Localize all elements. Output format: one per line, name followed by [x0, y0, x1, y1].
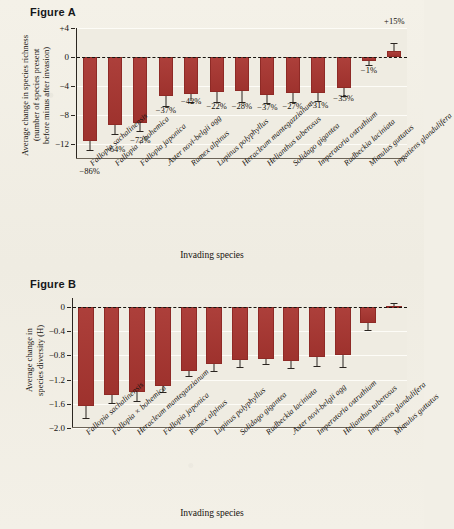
bar-value-label: +15% — [384, 16, 404, 26]
y-axis-tick-label: 0 — [61, 302, 66, 312]
y-axis-tick — [71, 28, 75, 29]
error-bar — [317, 357, 318, 367]
figure-b-y-axis-title: Average change in species diversity (H) — [24, 300, 45, 420]
figure-a-x-axis-title: Invading species — [0, 250, 424, 260]
error-bar-cap — [82, 418, 89, 419]
y-axis-tick-label: −12 — [55, 139, 69, 149]
bar-group: −86% — [77, 28, 102, 159]
y-axis-tick-label: −4 — [59, 81, 69, 91]
y-axis-tick — [67, 307, 71, 308]
error-bar — [368, 323, 369, 330]
figure-a-y-axis-title: Average change in species richness (numb… — [20, 30, 52, 160]
error-bar-cap — [262, 364, 269, 365]
bar-value-label: −37% — [257, 102, 277, 112]
bar — [235, 57, 249, 91]
figure-a-x-tick-labels: Fallopia sachalinensisFallopia × bohemic… — [0, 161, 424, 246]
y-axis-tick-label: −8 — [59, 110, 69, 120]
bar — [104, 307, 120, 395]
bar — [258, 307, 274, 359]
error-bar-cap — [211, 371, 218, 372]
figure-a-title: Figure A — [30, 6, 76, 18]
bar — [286, 57, 300, 93]
error-bar — [239, 360, 240, 367]
zero-reference-line — [73, 307, 407, 308]
bar — [260, 57, 274, 95]
y-axis-tick — [71, 115, 75, 116]
bar — [210, 57, 224, 92]
error-bar — [85, 406, 86, 417]
bar — [159, 57, 173, 96]
y-axis-tick-label: 0 — [65, 52, 70, 62]
error-bar-cap — [391, 303, 398, 304]
bar — [83, 57, 97, 141]
bar — [283, 307, 299, 361]
y-axis-tick — [71, 86, 75, 87]
figure-b-x-axis-title: Invading species — [0, 508, 424, 518]
error-bar — [115, 125, 116, 134]
bar — [78, 307, 94, 406]
y-axis-tick — [71, 144, 75, 145]
bar — [155, 307, 171, 386]
bar-value-label: −37% — [156, 105, 176, 115]
y-axis-tick — [67, 355, 71, 356]
bar — [232, 307, 248, 360]
bar-value-label: −22% — [206, 101, 226, 111]
zero-reference-line — [77, 57, 407, 58]
bar — [335, 307, 351, 355]
error-bar-cap — [288, 368, 295, 369]
bar-value-label: −1% — [361, 65, 377, 75]
y-axis-tick — [67, 331, 71, 332]
y-axis-tick — [67, 404, 71, 405]
bar — [181, 307, 197, 371]
error-bar — [394, 43, 395, 50]
error-bar — [342, 355, 343, 366]
y-axis-tick-label: −1.6 — [49, 399, 65, 409]
bar — [387, 51, 401, 58]
y-axis-tick — [67, 428, 71, 429]
error-bar — [89, 141, 90, 150]
error-bar-cap — [314, 366, 321, 367]
bar — [360, 307, 376, 323]
bar-value-label: −35% — [333, 93, 353, 103]
y-axis-tick-label: −0.4 — [49, 326, 65, 336]
figure-b: Figure B Average change in species diver… — [0, 272, 424, 529]
error-bar-cap — [185, 376, 192, 377]
figure-b-title: Figure B — [30, 278, 76, 290]
y-axis-tick-label: +4 — [59, 23, 69, 33]
error-bar-cap — [236, 367, 243, 368]
figure-a: Figure A Average change in species richn… — [0, 0, 424, 270]
figure-b-x-tick-labels: Fallopia sachalinensisFallopia × bohemic… — [0, 430, 424, 520]
bar-value-label: −28% — [232, 101, 252, 111]
error-bar-cap — [137, 131, 144, 132]
error-bar-cap — [391, 43, 398, 44]
bar — [206, 307, 222, 364]
error-bar-cap — [86, 150, 93, 151]
y-axis-tick — [67, 380, 71, 381]
y-axis-tick-label: −1.2 — [49, 375, 65, 385]
error-bar-cap — [339, 367, 346, 368]
error-bar — [214, 364, 215, 371]
bar-value-label: −42% — [181, 96, 201, 106]
y-axis-tick-label: −0.8 — [49, 350, 65, 360]
bar — [311, 57, 325, 93]
error-bar-cap — [365, 330, 372, 331]
error-bar — [111, 395, 112, 403]
y-axis-tick — [71, 57, 75, 58]
bar — [129, 307, 145, 392]
bar-group — [73, 298, 99, 428]
bar — [184, 57, 198, 94]
bar — [309, 307, 325, 357]
bar — [337, 57, 351, 88]
bar — [108, 57, 122, 125]
